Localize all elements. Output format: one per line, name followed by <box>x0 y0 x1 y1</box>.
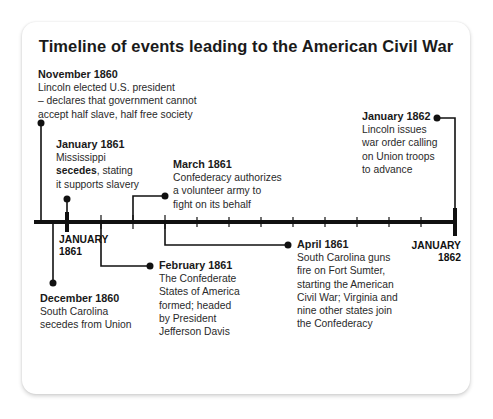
axis-end-label: JANUARY 1862 <box>407 240 461 264</box>
event-text: South Carolina guns <box>297 251 398 264</box>
marker-mar-1861 <box>162 193 169 200</box>
marker-apr-1861 <box>285 242 292 249</box>
marker-jan-1861 <box>64 196 71 203</box>
event-jan-1862: January 1862 Lincoln issues war order ca… <box>362 110 438 176</box>
event-text: by President <box>159 312 240 325</box>
event-date: April 1861 <box>297 238 398 251</box>
event-mar-1861: March 1861 Confederacy authorizes a volu… <box>173 158 282 211</box>
event-text: Lincoln elected U.S. president <box>38 81 197 94</box>
event-text: accept half slave, half free society <box>38 108 197 121</box>
event-nov-1860: November 1860 Lincoln elected U.S. presi… <box>38 68 197 121</box>
event-text: a volunteer army to <box>173 184 282 197</box>
axis-start-year: 1861 <box>59 246 108 258</box>
event-feb-1861: February 1861 The Confederate States of … <box>159 259 240 338</box>
event-text: fire on Fort Sumter, <box>297 264 398 277</box>
event-text: formed; headed <box>159 299 240 312</box>
event-text: on Union troops <box>362 150 438 163</box>
event-text: Jefferson Davis <box>159 325 240 338</box>
marker-feb-1861 <box>147 263 154 270</box>
event-date: December 1860 <box>40 292 132 305</box>
axis-end-year: 1862 <box>407 252 461 264</box>
event-date: January 1861 <box>56 138 139 151</box>
event-text: the Confederacy <box>297 317 398 330</box>
event-text: nine other states join <box>297 304 398 317</box>
event-text: secedes, stating <box>56 164 139 177</box>
event-text: South Carolina <box>40 305 132 318</box>
event-text: it supports slavery <box>56 178 139 191</box>
event-text-rest: , stating <box>97 165 133 176</box>
event-text: States of America <box>159 285 240 298</box>
axis-end-month: JANUARY <box>407 240 461 252</box>
event-text: war order calling <box>362 136 438 149</box>
event-text: Civil War; Virginia and <box>297 291 398 304</box>
event-date: November 1860 <box>38 68 197 81</box>
event-dec-1860: December 1860 South Carolina secedes fro… <box>40 292 132 332</box>
event-text: starting the American <box>297 278 398 291</box>
event-text: Lincoln issues <box>362 123 438 136</box>
event-text: Confederacy authorizes <box>173 171 282 184</box>
event-date: January 1862 <box>362 110 438 123</box>
event-jan-1861: January 1861 Mississippi secedes, statin… <box>56 138 139 191</box>
axis-start-month: JANUARY <box>59 234 108 246</box>
event-text: fight on its behalf <box>173 198 282 211</box>
event-text: Mississippi <box>56 151 139 164</box>
event-text: to advance <box>362 163 438 176</box>
event-text: The Confederate <box>159 272 240 285</box>
event-apr-1861: April 1861 South Carolina guns fire on F… <box>297 238 398 330</box>
event-date: February 1861 <box>159 259 240 272</box>
event-text: – declares that government cannot <box>38 94 197 107</box>
marker-dec-1860 <box>50 280 57 287</box>
event-text: secedes from Union <box>40 318 132 331</box>
event-emphasis: secedes <box>56 165 97 176</box>
axis-start-label: JANUARY 1861 <box>59 234 108 258</box>
event-date: March 1861 <box>173 158 282 171</box>
